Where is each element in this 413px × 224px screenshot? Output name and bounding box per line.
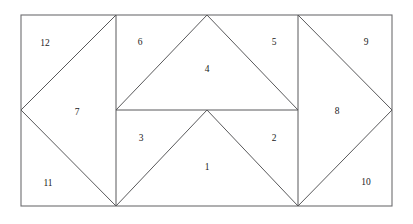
region-11-label: 11 (43, 179, 52, 189)
diag-right-diamond-lower (298, 110, 392, 206)
figure-canvas (0, 0, 413, 224)
diag-left-diamond-upper (21, 15, 116, 110)
region-6-label: 6 (138, 38, 143, 48)
diag-right-diamond-upper (298, 15, 392, 110)
region-2-label: 2 (272, 134, 277, 144)
geometric-figure: 123456789101112 (0, 0, 413, 224)
region-10-label: 10 (361, 178, 371, 188)
diag-left-diamond-lower (21, 110, 116, 206)
diag-center-upper-left (116, 15, 207, 110)
diag-center-lower-right (207, 110, 298, 206)
region-8-label: 8 (335, 107, 340, 117)
diag-center-upper-right (207, 15, 298, 110)
region-3-label: 3 (139, 134, 144, 144)
region-12-label: 12 (40, 39, 50, 49)
region-7-label: 7 (75, 108, 80, 118)
region-1-label: 1 (205, 163, 210, 173)
region-9-label: 9 (364, 38, 369, 48)
diag-center-lower-left (116, 110, 207, 206)
region-5-label: 5 (272, 38, 277, 48)
region-4-label: 4 (205, 65, 210, 75)
